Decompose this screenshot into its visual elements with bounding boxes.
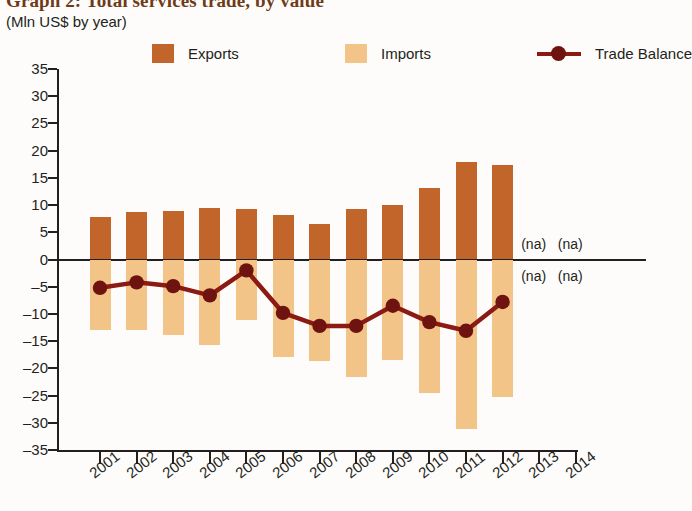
y-tick xyxy=(48,204,57,206)
y-tick xyxy=(48,259,57,261)
x-tick-label: 2007 xyxy=(306,447,343,481)
y-tick xyxy=(48,231,57,233)
y-tick-label: –25 xyxy=(23,388,48,403)
x-tick-label: 2014 xyxy=(562,447,599,481)
y-tick-label: –35 xyxy=(23,442,48,457)
legend-label-exports: Exports xyxy=(188,45,239,62)
y-tick-label: –10 xyxy=(23,306,48,321)
y-tick-label: 5 xyxy=(40,224,48,239)
legend-item-trade-balance[interactable]: Trade Balance xyxy=(537,42,692,64)
x-tick-label: 2004 xyxy=(196,447,233,481)
na-label: (na) xyxy=(521,236,546,252)
y-axis-labels: 35302520151050–5–10–15–20–25–30–35 xyxy=(2,69,48,450)
y-tick xyxy=(48,122,57,124)
x-tick-label: 2001 xyxy=(86,447,123,481)
y-tick-label: 15 xyxy=(31,170,48,185)
trade-balance-point xyxy=(349,319,363,333)
y-tick xyxy=(48,367,57,369)
y-tick xyxy=(48,340,57,342)
trade-balance-point xyxy=(495,295,509,309)
y-tick-label: 25 xyxy=(31,115,48,130)
y-tick xyxy=(48,313,57,315)
legend-line-marker-icon xyxy=(537,44,581,63)
chart-legend: Exports Imports Trade Balance xyxy=(152,42,632,64)
x-tick-label: 2002 xyxy=(123,447,160,481)
y-tick-label: –15 xyxy=(23,333,48,348)
y-tick xyxy=(48,422,57,424)
x-tick-label: 2010 xyxy=(415,447,452,481)
trade-balance-point xyxy=(166,279,180,293)
x-tick-label: 2003 xyxy=(159,447,196,481)
trade-balance-point xyxy=(459,324,473,338)
na-label: (na) xyxy=(558,268,583,284)
title-block: Graph 2: Total services trade, by value … xyxy=(6,0,646,30)
x-tick-label: 2008 xyxy=(342,447,379,481)
x-tick-label: 2009 xyxy=(379,447,416,481)
y-tick xyxy=(48,68,57,70)
y-tick xyxy=(48,449,57,451)
plot-area: 35302520151050–5–10–15–20–25–30–35 (na)(… xyxy=(57,69,577,450)
y-tick-label: 0 xyxy=(40,252,48,267)
legend-label-imports: Imports xyxy=(381,45,431,62)
y-tick xyxy=(48,95,57,97)
trade-balance-point xyxy=(93,281,107,295)
y-tick-label: –30 xyxy=(23,415,48,430)
legend-swatch-exports-icon xyxy=(152,44,174,63)
y-tick xyxy=(48,395,57,397)
y-tick-label: 35 xyxy=(31,61,48,76)
trade-balance-point xyxy=(312,319,326,333)
y-tick-label: –20 xyxy=(23,360,48,375)
y-tick xyxy=(48,150,57,152)
page-title: Graph 2: Total services trade, by value xyxy=(6,0,646,11)
trade-balance-point xyxy=(203,288,217,302)
x-tick-label: 2013 xyxy=(525,447,562,481)
legend-item-exports[interactable]: Exports xyxy=(152,42,239,64)
x-tick-label: 2012 xyxy=(489,447,526,481)
trade-balance-point xyxy=(276,306,290,320)
trade-balance-point xyxy=(129,275,143,289)
na-label: (na) xyxy=(521,268,546,284)
chart-subtitle: (Mln US$ by year) xyxy=(6,13,646,30)
x-tick-label: 2011 xyxy=(452,448,488,481)
y-tick xyxy=(48,286,57,288)
y-tick xyxy=(48,177,57,179)
trade-balance-line-series xyxy=(57,69,577,450)
legend-label-trade-balance: Trade Balance xyxy=(595,45,692,62)
legend-swatch-imports-icon xyxy=(345,44,367,63)
na-label: (na) xyxy=(558,236,583,252)
y-tick-label: 30 xyxy=(31,88,48,103)
y-tick-label: 10 xyxy=(31,197,48,212)
trade-balance-polyline xyxy=(100,270,503,330)
x-axis: 2001200220032004200520062007200820092010… xyxy=(57,450,578,510)
legend-item-imports[interactable]: Imports xyxy=(345,42,431,64)
y-tick-label: 20 xyxy=(31,143,48,158)
x-tick-label: 2006 xyxy=(269,447,306,481)
trade-balance-point xyxy=(239,263,253,277)
x-tick-label: 2005 xyxy=(232,447,269,481)
trade-balance-point xyxy=(386,299,400,313)
y-tick-label: –5 xyxy=(31,279,48,294)
trade-balance-point xyxy=(422,315,436,329)
